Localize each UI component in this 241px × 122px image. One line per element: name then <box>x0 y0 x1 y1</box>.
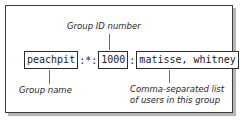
token-separator-1: :*: <box>78 51 98 69</box>
token-group-id: 1000 <box>98 51 128 69</box>
figure-frame: Group ID number Group name Comma-separat… <box>5 5 233 113</box>
callout-label-group-name: Group name <box>19 85 72 96</box>
token-member-list: matisse, whitney <box>136 51 238 69</box>
leader-line-group-name <box>49 70 50 84</box>
leader-line-group-id <box>109 34 110 50</box>
callout-label-group-id: Group ID number <box>67 21 141 32</box>
figure-screenshot: Group ID number Group name Comma-separat… <box>0 0 241 122</box>
leader-line-member-list <box>169 70 170 83</box>
callout-label-member-list-line2: of users in this group <box>130 95 220 105</box>
token-group-name: peachpit <box>24 51 78 69</box>
syntax-line: peachpit:*:1000:matisse, whitney <box>24 50 239 70</box>
callout-label-member-list-line1: Comma-separated list <box>130 84 224 94</box>
callout-label-member-list: Comma-separated listof users in this gro… <box>130 84 224 106</box>
token-separator-2: : <box>128 51 136 69</box>
